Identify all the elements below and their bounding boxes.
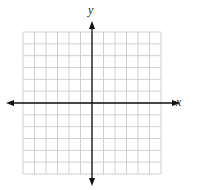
y-axis-down-arrow-icon xyxy=(89,178,95,186)
x-axis-left-arrow-icon xyxy=(6,100,14,106)
coordinate-plane xyxy=(0,0,200,190)
y-axis-up-arrow-icon xyxy=(89,21,95,29)
x-axis-label: x xyxy=(176,95,181,110)
y-axis-label: y xyxy=(88,3,93,18)
x-axis xyxy=(6,100,180,106)
